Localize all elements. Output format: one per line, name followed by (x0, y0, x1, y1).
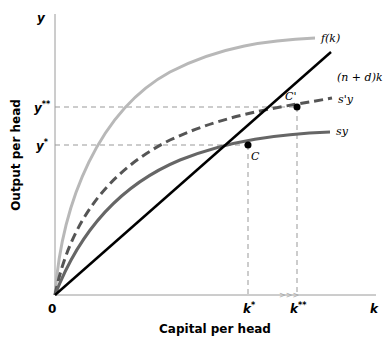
point-c-label: C (251, 150, 260, 163)
y-double-star-label: y** (34, 100, 51, 115)
movement-arrows: >>> (279, 291, 299, 300)
fk-curve (55, 38, 315, 295)
y-axis-title: Output per head (9, 99, 23, 211)
y-axis-end-label: y (37, 11, 46, 25)
point-c-prime-label: C' (285, 90, 296, 103)
x-axis-end-label: k (370, 302, 379, 316)
x-axis-title: Capital per head (159, 322, 271, 336)
k-double-star-label: k** (290, 301, 307, 316)
fk-label: f(k) (320, 32, 340, 45)
origin-label: 0 (48, 302, 56, 316)
sy-label: sy (336, 125, 349, 138)
nd-k-label: (n + d)k (337, 71, 383, 84)
s-prime-y-label: s'y (338, 93, 354, 106)
k-star-label: k* (243, 301, 256, 316)
solow-growth-chart: C C' f(k) (n + d)k s'y sy y k 0 y** y* k… (0, 0, 392, 347)
depreciation-line (55, 52, 331, 295)
sy-curve (55, 132, 330, 295)
y-star-label: y* (36, 138, 49, 153)
s-prime-y-curve (55, 98, 332, 295)
point-c (245, 142, 252, 149)
point-c-prime (294, 104, 301, 111)
